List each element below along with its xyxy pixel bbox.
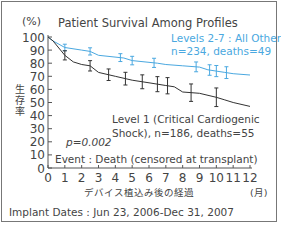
y-tick-label: 50: [30, 96, 45, 110]
x-tick-label: 10: [209, 171, 224, 185]
event-note: Event : Death (censored at transplant): [55, 153, 258, 165]
survival-chart: 01020304050607080901000123456789101112 (…: [0, 0, 281, 230]
y-tick-label: 20: [30, 135, 45, 149]
y-label-char-1: 生: [15, 83, 25, 95]
x-tick-label: 12: [242, 171, 257, 185]
y-tick-label: 70: [30, 70, 45, 84]
y-tick-label: 30: [30, 122, 45, 136]
x-tick-label: 11: [226, 171, 241, 185]
x-unit-label: (月): [250, 187, 267, 198]
black-series-label-2: Shock), n=186, deaths=55: [112, 127, 255, 139]
black-series-label-1: Level 1 (Critical Cardiogenic: [112, 113, 260, 125]
y-tick-label: 60: [30, 83, 45, 97]
x-tick-label: 7: [162, 171, 170, 185]
y-tick-label: 80: [30, 57, 45, 71]
chart-title: Patient Survival Among Profiles: [58, 16, 238, 30]
x-tick-label: 0: [44, 171, 52, 185]
x-tick-label: 1: [61, 171, 69, 185]
x-tick-label: 4: [112, 171, 120, 185]
x-tick-label: 2: [78, 171, 86, 185]
x-axis-label: デバイス植込み後の経過: [84, 187, 194, 198]
blue-series-label-1: Levels 2-7 : All Others,: [171, 32, 281, 44]
y-unit-label: (%): [22, 15, 41, 28]
y-tick-label: 40: [30, 109, 45, 123]
footer-implant-dates: Implant Dates : Jun 23, 2006-Dec 31, 200…: [9, 206, 234, 218]
y-label-char-2: 存: [15, 94, 25, 106]
x-tick-label: 5: [128, 171, 136, 185]
x-tick-label: 6: [145, 171, 153, 185]
x-tick-label: 3: [95, 171, 103, 185]
y-tick-label: 10: [30, 148, 45, 162]
p-value: p=0.002: [65, 136, 112, 148]
blue-series-label-2: n=234, deaths=49: [171, 45, 271, 57]
y-tick-label: 100: [22, 31, 45, 45]
y-tick-label: 90: [30, 44, 45, 58]
x-tick-label: 8: [179, 171, 187, 185]
y-label-char-3: 率: [15, 105, 25, 117]
x-tick-label: 9: [196, 171, 204, 185]
